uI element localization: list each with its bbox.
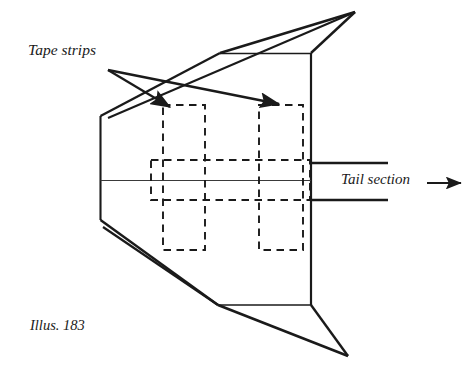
airframe-outline <box>101 53 312 305</box>
tape-strip-right <box>259 105 303 250</box>
nose-upper-slant <box>101 53 221 116</box>
illustration-caption: Illus. 183 <box>30 318 85 333</box>
illustration-page: Tape strips Tail section Illus. 183 <box>0 0 475 369</box>
lower-wing-sweep-line <box>103 227 218 305</box>
tape-strip-shapes <box>151 105 310 250</box>
tape-strips-label: Tape strips <box>28 42 96 58</box>
tail-section-label: Tail section <box>341 172 410 187</box>
leader-arrows <box>108 70 279 107</box>
upper-wing-sweep-line <box>108 12 355 118</box>
tape-strip-left <box>163 105 205 250</box>
